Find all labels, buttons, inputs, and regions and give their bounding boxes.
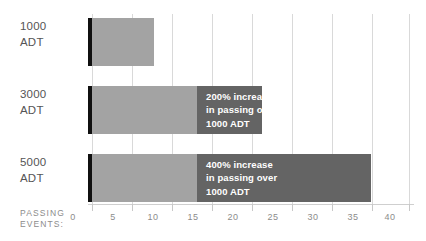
bar-5000-adt[interactable]: 400% increase in passing over 1000 ADT: [88, 154, 371, 202]
tick-label-20: 20: [218, 212, 248, 222]
category-label-line1: 5000: [20, 154, 90, 170]
tick-label-10: 10: [138, 212, 168, 222]
category-label-line1: 1000: [20, 18, 90, 34]
category-label-line1: 3000: [20, 86, 90, 102]
category-label-line2: ADT: [20, 34, 90, 50]
bar-annotation-line2: in passing over: [206, 103, 262, 117]
x-axis-title-line1: PASSING: [20, 208, 65, 219]
tick-mark-35: [372, 204, 373, 211]
category-label-1000-adt: 1000 ADT: [20, 18, 90, 50]
tick-mark-40: [409, 204, 410, 211]
bar-body-1000-adt: [92, 18, 154, 66]
category-label-line2: ADT: [20, 102, 90, 118]
bar-annotation-5000-adt: 400% increase in passing over 1000 ADT: [197, 154, 371, 202]
bar-1000-adt[interactable]: [88, 18, 154, 66]
tick-mark-0: [92, 204, 93, 211]
tick-label-30: 30: [298, 212, 328, 222]
tick-mark-20: [252, 204, 253, 211]
tick-label-35: 35: [338, 212, 368, 222]
plot-area: 200% increase in passing over 1000 ADT 4…: [88, 14, 414, 204]
bar-3000-adt[interactable]: 200% increase in passing over 1000 ADT: [88, 86, 262, 134]
tick-mark-10: [172, 204, 173, 211]
bar-annotation-line1: 200% increase: [206, 90, 262, 104]
tick-mark-25: [292, 204, 293, 211]
tick-label-25: 25: [258, 212, 288, 222]
bar-annotation-line1: 400% increase: [206, 158, 371, 172]
x-axis-title-line2: EVENTS:: [20, 219, 65, 230]
tick-label-5: 5: [98, 212, 128, 222]
tick-mark-5: [132, 204, 133, 211]
bars: 200% increase in passing over 1000 ADT 4…: [88, 14, 414, 204]
bar-annotation-3000-adt: 200% increase in passing over 1000 ADT: [197, 86, 262, 134]
category-label-3000-adt: 3000 ADT: [20, 86, 90, 118]
bar-annotation-line2: in passing over: [206, 171, 371, 185]
tick-label-15: 15: [178, 212, 208, 222]
tick-mark-15: [212, 204, 213, 211]
category-label-line2: ADT: [20, 170, 90, 186]
tick-mark-30: [332, 204, 333, 211]
category-axis-labels: 1000 ADT 3000 ADT 5000 ADT: [0, 14, 80, 204]
x-axis-ticks: [88, 204, 414, 211]
bar-annotation-line3: 1000 ADT: [206, 117, 262, 131]
tick-label-40: 40: [375, 212, 405, 222]
bar-annotation-line3: 1000 ADT: [206, 185, 371, 199]
x-axis-tick-labels: 0 5 10 15 20 25 30 35 40: [88, 212, 426, 226]
category-label-5000-adt: 5000 ADT: [20, 154, 90, 186]
x-axis-title: PASSING EVENTS:: [20, 208, 65, 229]
passing-events-bar-chart: 1000 ADT 3000 ADT 5000 ADT: [0, 0, 426, 241]
